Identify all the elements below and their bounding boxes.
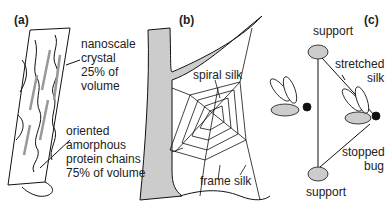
support-top-label: support bbox=[313, 24, 353, 38]
stopped-bug bbox=[339, 85, 380, 124]
support-bottom-label: support bbox=[306, 185, 346, 199]
spiral-silk-label: spiral silk bbox=[193, 68, 242, 82]
frame-silk-label: frame silk bbox=[200, 174, 251, 188]
stretched-silk-label: stretched silk bbox=[335, 57, 384, 85]
flying-bug bbox=[267, 75, 311, 116]
stopped-bug-label: stopped bug bbox=[342, 145, 385, 173]
crystal-label: nanoscale crystal 25% of volume bbox=[81, 37, 136, 93]
amorphous-label: oriented amorphous protein chains 75% of… bbox=[66, 124, 145, 180]
panel-a-label: (a) bbox=[14, 13, 29, 27]
panel-b-label: (b) bbox=[179, 13, 194, 27]
tree-trunk bbox=[140, 16, 262, 200]
fiber-illustration bbox=[8, 28, 70, 196]
panel-c-label: (c) bbox=[364, 13, 379, 27]
